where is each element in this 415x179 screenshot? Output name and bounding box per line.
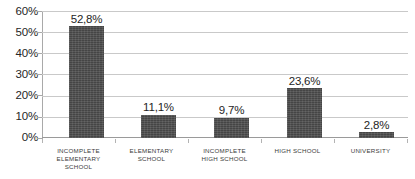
x-axis-category-label-incomplete-elementary-school: INCOMPLETE ELEMENTARY SCHOOL (42, 147, 115, 172)
y-axis-tick-label: 50% (2, 27, 38, 39)
y-axis-tick-labels: 60% 50% 40% 30% 20% 10% 0% (0, 0, 38, 179)
bar-value-label: 52,8% (59, 14, 114, 26)
x-axis-tick (261, 139, 262, 143)
x-axis-category-label-elementary-school: ELEMENTARY SCHOOL (115, 147, 188, 163)
y-axis-tick-label: 60% (2, 6, 38, 18)
bar-value-label: 23,6% (277, 76, 332, 88)
y-axis-tick-label: 0% (2, 132, 38, 144)
bar-incomplete-high-school (214, 118, 249, 139)
x-axis-tick (334, 139, 335, 143)
y-axis-tick-label: 20% (2, 90, 38, 102)
bar-chart: 60% 50% 40% 30% 20% 10% 0% 52,8% 11,1% 9… (0, 0, 415, 179)
bar-incomplete-elementary-school (69, 26, 104, 138)
x-axis-tick (115, 139, 116, 143)
x-axis-category-label-university: UNIVERSITY (334, 147, 407, 155)
x-axis-category-label-incomplete-high-school: INCOMPLETE HIGH SCHOOL (188, 147, 261, 163)
x-axis-tick (42, 139, 43, 143)
y-axis-tick-label: 10% (2, 111, 38, 123)
bar-value-label: 2,8% (349, 120, 404, 132)
bar-elementary-school (141, 115, 176, 139)
x-axis-tick (407, 139, 408, 143)
bar-high-school (287, 88, 322, 138)
bar-value-label: 11,1% (131, 102, 186, 114)
x-axis-ticks (42, 139, 408, 144)
x-axis-tick (188, 139, 189, 143)
gridline-60 (42, 11, 408, 12)
y-axis-tick-label: 40% (2, 48, 38, 60)
bar-value-label: 9,7% (204, 105, 259, 117)
y-axis-tick-label: 30% (2, 69, 38, 81)
plot-area: 52,8% 11,1% 9,7% 23,6% 2,8% (42, 11, 408, 138)
bar-university (359, 132, 394, 138)
x-axis-category-label-high-school: HIGH SCHOOL (261, 147, 334, 155)
